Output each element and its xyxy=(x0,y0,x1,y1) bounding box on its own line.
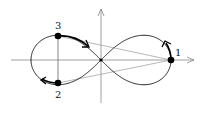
point-1-label: 1 xyxy=(175,47,181,58)
origin-point xyxy=(99,58,102,61)
chord-1-2 xyxy=(58,60,171,83)
point-1 xyxy=(168,57,175,64)
point-3 xyxy=(55,33,62,40)
point-2-label: 2 xyxy=(55,89,61,100)
point-3-label: 3 xyxy=(55,20,61,31)
lemniscate-diagram: 1 2 3 xyxy=(0,0,207,116)
point-2 xyxy=(55,80,62,87)
